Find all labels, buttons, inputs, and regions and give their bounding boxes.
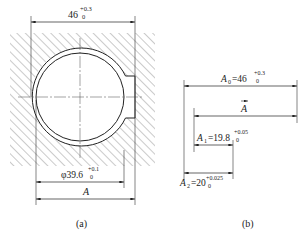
dim-46-base: 46 — [68, 9, 78, 20]
svg-text:+0.025: +0.025 — [206, 175, 223, 181]
label-a2: A 2 =20 +0.025 0 — [179, 175, 223, 189]
svg-text:0: 0 — [236, 137, 239, 143]
dim-diameter-lower: 0 — [90, 174, 93, 180]
label-a1: A 1 =19.8 +0.05 0 — [196, 129, 248, 144]
svg-text:+0.05: +0.05 — [234, 129, 248, 135]
label-a0: A 0 =46 +0.3 0 — [220, 70, 265, 85]
dim-46-upper: +0.3 — [80, 5, 92, 12]
svg-text:+0.3: +0.3 — [254, 70, 265, 76]
caption-b: (b) — [242, 218, 254, 230]
svg-text:0: 0 — [256, 78, 259, 84]
svg-text:A: A — [196, 133, 203, 143]
label-a-vector: A — [240, 101, 248, 114]
svg-text:=46: =46 — [232, 74, 247, 84]
dimension-chain-diagram: 46 +0.3 0 φ39.6 +0.1 0 A (a) A 0 =46 +0.… — [0, 0, 304, 240]
svg-text:1: 1 — [204, 138, 207, 144]
svg-text:0: 0 — [228, 79, 231, 85]
svg-text:2: 2 — [187, 183, 190, 189]
svg-text:=20: =20 — [191, 178, 206, 188]
caption-a: (a) — [76, 218, 87, 230]
dim-a-label: A — [82, 186, 90, 197]
svg-text:=19.8: =19.8 — [208, 133, 230, 143]
dim-46-lower: 0 — [82, 13, 85, 20]
figure-a: 46 +0.3 0 φ39.6 +0.1 0 A (a) — [10, 5, 155, 230]
svg-text:A: A — [240, 103, 248, 114]
svg-text:0: 0 — [208, 183, 211, 189]
dim-diameter-base: φ39.6 — [61, 170, 83, 180]
dim-diameter-upper: +0.1 — [88, 166, 99, 172]
svg-text:A: A — [220, 74, 227, 84]
figure-b: A 0 =46 +0.3 0 A A 1 =19.8 +0.05 0 A 2 =… — [179, 70, 297, 230]
svg-text:A: A — [179, 178, 186, 188]
